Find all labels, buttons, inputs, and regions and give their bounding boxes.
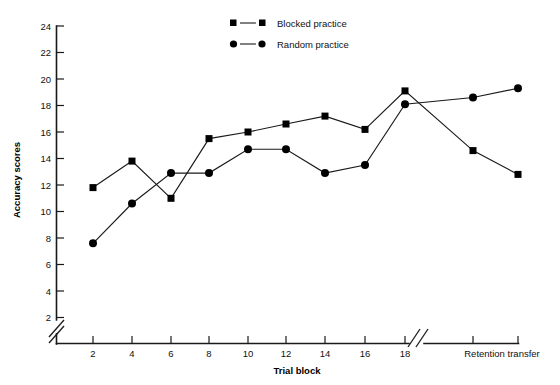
series-line-blocked-practice: [93, 91, 518, 198]
data-point-random-1: [89, 239, 97, 247]
data-point-random-10: [469, 94, 477, 102]
legend: Blocked practice Random practice: [230, 18, 349, 50]
legend-item-random-practice: Random practice: [230, 39, 349, 50]
data-point-random-2: [128, 200, 136, 208]
y-ticks-group: 24 22 20 18 16 14 12 10 8 6 4 2: [40, 21, 64, 324]
data-point-random-3: [167, 169, 175, 177]
legend-item-blocked-practice: Blocked practice: [230, 18, 347, 29]
data-point-blocked-4: [206, 135, 213, 142]
data-point-blocked-5: [245, 129, 252, 136]
data-point-blocked-11: [515, 171, 522, 178]
legend-label-blocked-practice: Blocked practice: [277, 18, 347, 29]
x-axis-title: Trial block: [274, 365, 322, 376]
data-point-random-6: [282, 145, 290, 153]
x-ticks-group: 2 4 6 8 10 12 14 16 18 Retention transfe…: [90, 336, 539, 359]
x-tick-label-12: 12: [281, 348, 292, 359]
data-point-random-11: [514, 84, 522, 92]
y-tick-label-18: 18: [40, 100, 51, 111]
data-point-blocked-6: [283, 121, 290, 128]
series-blocked-practice: [90, 87, 522, 201]
data-point-blocked-3: [168, 195, 175, 202]
legend-square-marker-left: [230, 20, 237, 27]
x-tick-label-4: 4: [129, 348, 134, 359]
y-tick-label-8: 8: [46, 233, 51, 244]
data-point-random-8: [361, 161, 369, 169]
accuracy-scores-line-chart: 24 22 20 18 16 14 12 10 8 6 4 2: [0, 0, 560, 385]
legend-square-marker-right: [259, 20, 266, 27]
x-tick-label-10: 10: [243, 348, 254, 359]
x-tick-label-8: 8: [206, 348, 211, 359]
x-tick-label-14: 14: [320, 348, 331, 359]
x-tick-label-16: 16: [360, 348, 371, 359]
x-tick-label-retention-transfer: Retention transfer: [464, 348, 540, 359]
data-point-random-7: [321, 169, 329, 177]
y-tick-label-12: 12: [40, 180, 51, 191]
data-point-blocked-2: [129, 158, 136, 165]
data-point-blocked-1: [90, 184, 97, 191]
legend-circle-marker-right: [258, 40, 265, 47]
y-tick-label-20: 20: [40, 74, 51, 85]
y-tick-label-6: 6: [46, 259, 51, 270]
data-point-blocked-10: [470, 147, 477, 154]
legend-circle-marker-left: [230, 40, 237, 47]
data-point-blocked-9: [402, 87, 409, 94]
y-tick-label-24: 24: [40, 21, 51, 32]
y-tick-label-22: 22: [40, 47, 51, 58]
y-axis-title: Accuracy scores: [11, 142, 22, 218]
data-point-random-5: [244, 145, 252, 153]
series-random-practice: [89, 84, 522, 247]
axis-group: [49, 26, 519, 347]
chart-figure: 24 22 20 18 16 14 12 10 8 6 4 2: [0, 0, 560, 385]
data-point-random-4: [205, 169, 213, 177]
data-point-blocked-8: [362, 126, 369, 133]
legend-label-random-practice: Random practice: [277, 39, 349, 50]
x-tick-label-6: 6: [168, 348, 173, 359]
y-tick-label-14: 14: [40, 153, 51, 164]
x-tick-label-18: 18: [400, 348, 411, 359]
data-point-blocked-7: [322, 113, 329, 120]
y-tick-label-4: 4: [46, 286, 51, 297]
x-tick-label-2: 2: [90, 348, 95, 359]
y-tick-label-10: 10: [40, 206, 51, 217]
series-line-random-practice: [93, 88, 518, 243]
y-tick-label-2: 2: [46, 312, 51, 323]
data-point-random-9: [401, 100, 409, 108]
y-tick-label-16: 16: [40, 127, 51, 138]
